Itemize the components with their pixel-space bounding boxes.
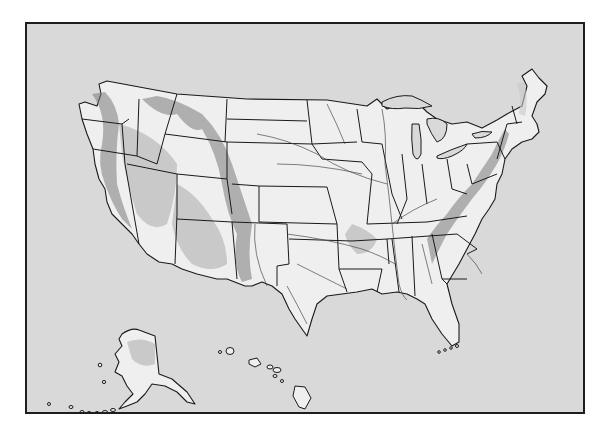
alaska-mainland [115,329,195,409]
alaska [48,329,196,412]
lake-superior [382,96,432,109]
lake-michigan [412,124,422,159]
florida-keys [438,345,459,354]
hawaii [219,348,312,410]
hawaii-big-island [293,386,311,409]
map-frame [25,22,585,414]
us-relief-map [27,24,583,412]
